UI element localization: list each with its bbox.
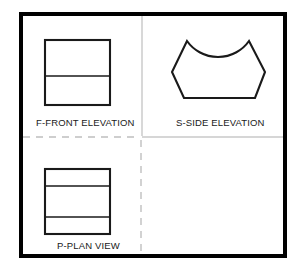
orthographic-drawing-canvas bbox=[0, 0, 306, 270]
drawing-sheet: F-FRONT ELEVATION S-SIDE ELEVATION P-PLA… bbox=[0, 0, 306, 270]
side-elevation-view bbox=[172, 41, 265, 98]
plan-view-outline bbox=[45, 169, 110, 234]
front-elevation-label: F-FRONT ELEVATION bbox=[36, 118, 135, 128]
front-elevation-view bbox=[45, 40, 110, 105]
side-elevation-outline bbox=[172, 41, 265, 98]
side-elevation-label: S-SIDE ELEVATION bbox=[176, 118, 265, 128]
plan-view-label: P-PLAN VIEW bbox=[57, 241, 120, 251]
front-elevation-outline bbox=[45, 40, 110, 105]
plan-view-view bbox=[45, 169, 110, 234]
